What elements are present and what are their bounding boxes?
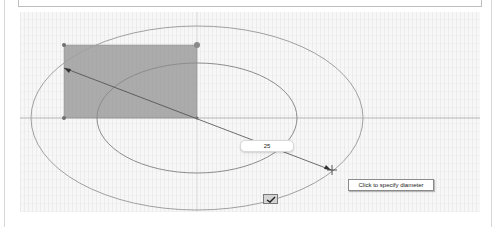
corner-point-top-right[interactable] [194,42,200,48]
center-point[interactable] [196,117,199,120]
cursor-crosshair-icon [327,165,337,175]
diameter-input[interactable] [241,141,293,151]
sketch-rectangle[interactable] [64,45,197,118]
corner-point-bottom-left[interactable] [62,116,66,120]
checkmark-icon [266,196,276,203]
sketch-geometry[interactable] [0,0,494,227]
arrowhead-end-icon [324,165,331,170]
corner-point-top-left[interactable] [62,43,66,47]
ok-button[interactable] [263,194,278,204]
tooltip: Click to specify diameter [348,179,434,191]
diameter-input-box[interactable] [240,140,294,152]
